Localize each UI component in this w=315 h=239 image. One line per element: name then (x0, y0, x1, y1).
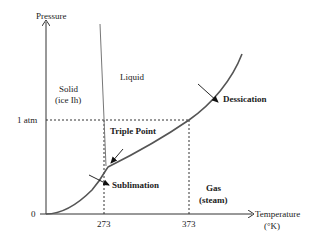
region-solid: Solid (59, 84, 79, 94)
phase-diagram: Pressure Temperature (°K) 1 atm 0 273 37… (0, 0, 315, 239)
y-axis-label: Pressure (36, 11, 67, 21)
x-tick-273: 273 (97, 219, 111, 229)
y-tick-1atm: 1 atm (17, 115, 37, 125)
x-axis-unit: (°K) (264, 221, 280, 231)
melting-line (100, 24, 106, 166)
label-dessication: Dessication (223, 94, 267, 104)
region-gas: Gas (206, 183, 222, 193)
dessication-arrow (198, 84, 218, 102)
region-gas-sub: (steam) (199, 195, 228, 205)
x-axis-label: Temperature (255, 209, 300, 219)
region-solid-sub: (ice Ih) (55, 95, 81, 105)
x-tick-373: 373 (182, 219, 196, 229)
label-triple-point: Triple Point (110, 126, 156, 136)
y-tick-0: 0 (31, 209, 36, 219)
label-sublimation: Sublimation (112, 180, 159, 190)
region-liquid: Liquid (120, 72, 144, 82)
sublimation-arrow (89, 175, 109, 185)
